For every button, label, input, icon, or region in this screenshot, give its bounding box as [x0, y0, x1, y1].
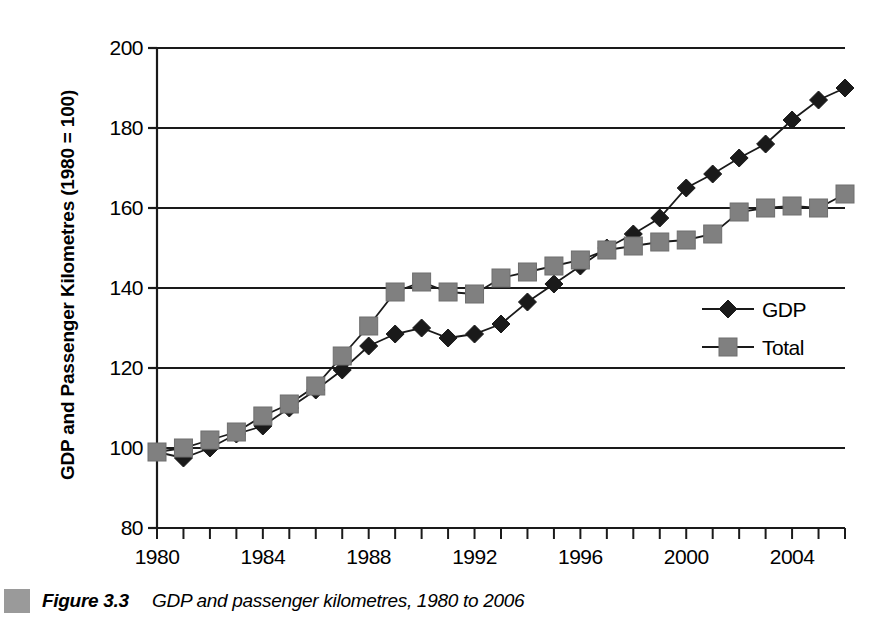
data-series-group [148, 79, 854, 467]
marker-total-2004 [783, 197, 801, 215]
marker-total-1987 [333, 347, 351, 365]
y-axis-label-80: 80 [91, 517, 143, 538]
y-axis-label-120: 120 [91, 357, 143, 378]
marker-total-1991 [439, 283, 457, 301]
y-axis-label-100: 100 [91, 437, 143, 458]
marker-total-1990 [413, 273, 431, 291]
marker-gdp-1991 [439, 329, 457, 347]
marker-total-1983 [227, 423, 245, 441]
x-axis-label-1980: 1980 [122, 546, 192, 567]
gridlines-group [157, 48, 845, 528]
marker-gdp-2005 [810, 91, 828, 109]
chart-legend: GDPTotal [700, 296, 840, 370]
x-axis-label-2004: 2004 [757, 546, 827, 567]
marker-total-1982 [201, 431, 219, 449]
caption-swatch-icon [4, 589, 30, 613]
marker-total-1999 [651, 233, 669, 251]
legend-item-total[interactable]: Total [700, 334, 840, 364]
legend-item-gdp[interactable]: GDP [700, 296, 840, 326]
marker-total-2001 [704, 225, 722, 243]
marker-total-1984 [254, 407, 272, 425]
caption-description: GDP and passenger kilometres, 1980 to 20… [152, 586, 524, 616]
marker-total-2003 [757, 199, 775, 217]
y-axis-label-160: 160 [91, 197, 143, 218]
x-axis-label-1992: 1992 [440, 546, 510, 567]
marker-total-1988 [360, 317, 378, 335]
x-tick-marks [157, 528, 845, 539]
marker-total-1980 [148, 443, 166, 461]
marker-gdp-2001 [704, 165, 722, 183]
marker-total-1993 [492, 269, 510, 287]
marker-gdp-1990 [413, 319, 431, 337]
marker-total-1995 [545, 257, 563, 275]
marker-total-1992 [466, 285, 484, 303]
chart-plot-area: GDP and Passenger Kilometres (1980 = 100… [0, 0, 883, 578]
marker-total-1997 [598, 241, 616, 259]
legend-diamond [719, 300, 737, 318]
marker-total-1981 [174, 439, 192, 457]
marker-total-1986 [307, 377, 325, 395]
legend-marker-square-icon [700, 334, 756, 360]
y-axis-label-140: 140 [91, 277, 143, 298]
x-axis-label-1988: 1988 [334, 546, 404, 567]
y-axis-label-200: 200 [91, 37, 143, 58]
y-axis-label-180: 180 [91, 117, 143, 138]
legend-label-total: Total [762, 336, 804, 360]
x-axis-label-1984: 1984 [228, 546, 298, 567]
marker-total-1985 [280, 395, 298, 413]
figure-caption: Figure 3.3 GDP and passenger kilometres,… [0, 586, 883, 624]
marker-total-2006 [836, 185, 854, 203]
marker-total-1996 [571, 251, 589, 269]
legend-label-gdp: GDP [762, 298, 806, 322]
marker-gdp-1989 [386, 325, 404, 343]
x-axis-label-1996: 1996 [545, 546, 615, 567]
marker-gdp-2006 [836, 79, 854, 97]
marker-gdp-2002 [730, 149, 748, 167]
caption-figure-number: Figure 3.3 [42, 586, 129, 616]
marker-total-1989 [386, 283, 404, 301]
marker-total-2000 [677, 231, 695, 249]
marker-gdp-1995 [545, 275, 563, 293]
legend-square [719, 338, 737, 356]
marker-total-1994 [518, 263, 536, 281]
marker-total-1998 [624, 237, 642, 255]
marker-gdp-1992 [466, 325, 484, 343]
marker-total-2005 [810, 199, 828, 217]
marker-total-2002 [730, 203, 748, 221]
x-axis-label-2000: 2000 [651, 546, 721, 567]
figure-container: GDP and Passenger Kilometres (1980 = 100… [0, 0, 883, 625]
legend-marker-diamond-icon [700, 296, 756, 322]
